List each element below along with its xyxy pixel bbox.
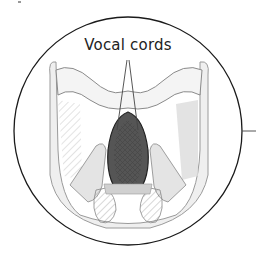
vocal-cords-label: Vocal cords (0, 36, 256, 54)
larynx-drawing (50, 62, 209, 228)
